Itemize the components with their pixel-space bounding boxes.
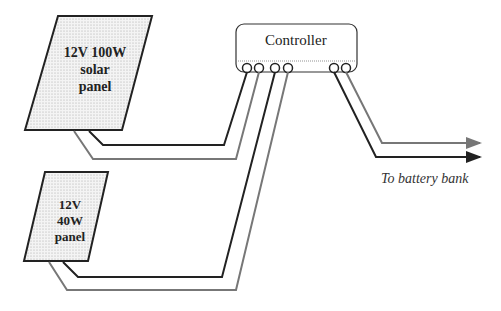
small-panel-label: 12V 40W panel bbox=[48, 197, 92, 245]
battery-wire-dark bbox=[334, 72, 480, 157]
small-panel-label-line-1: 12V bbox=[48, 197, 92, 213]
controller-label: Controller bbox=[265, 32, 327, 49]
large-panel-label: 12V 100W solar panel bbox=[55, 44, 135, 95]
large-panel-label-line-2: solar bbox=[55, 61, 135, 78]
battery-wire-light bbox=[346, 72, 480, 143]
large-panel-label-line-3: panel bbox=[55, 78, 135, 95]
small-panel-label-line-3: panel bbox=[48, 229, 92, 245]
small-panel-label-line-2: 40W bbox=[48, 213, 92, 229]
battery-bank-label: To battery bank bbox=[381, 171, 468, 187]
large-panel-label-line-1: 12V 100W bbox=[55, 44, 135, 61]
